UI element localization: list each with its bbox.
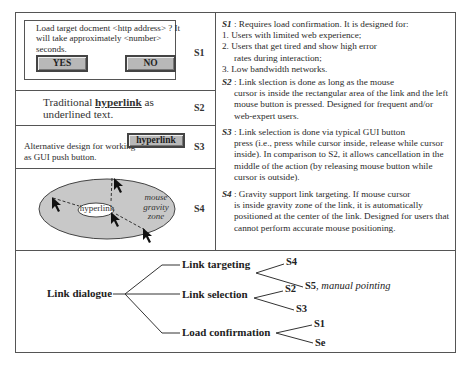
tree-branch-load-confirmation: Load confirmation [182,326,270,338]
tree-leaf-s2: S2 [285,283,296,294]
tree-leaf-s3: S3 [296,303,307,314]
tree-leaf-s4: S4 [286,256,297,267]
tree-leaf-s5: S5, manual pointing [305,280,390,291]
tree-leaf-s5-tag: S5 [305,280,316,291]
tree-leaf-s5-note: , manual pointing [316,280,390,291]
tree-leaf-se: Se [315,337,326,348]
tree-leaf-s1: S1 [314,318,325,329]
tree-root-link-dialogue: Link dialogue [47,287,112,299]
tree-connectors [0,0,464,367]
tree-branch-link-selection: Link selection [182,288,248,300]
tree-branch-link-targeting: Link targeting [182,258,250,270]
